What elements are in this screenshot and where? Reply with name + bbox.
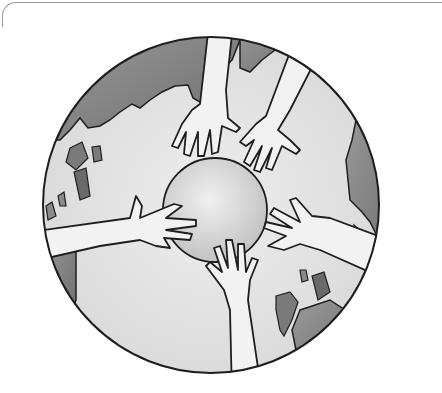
island (300, 270, 308, 282)
inner-globe (163, 158, 267, 262)
island (92, 146, 102, 162)
world-globe (30, 15, 400, 393)
